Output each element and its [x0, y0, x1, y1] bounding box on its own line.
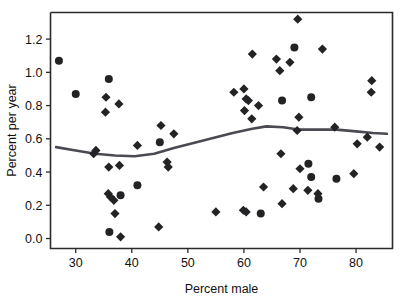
x-tick-label: 80: [349, 256, 363, 270]
x-axis-title: Percent male: [185, 282, 259, 296]
data-point-circle: [117, 191, 125, 199]
data-point-circle: [332, 175, 340, 183]
x-tick-label: 70: [293, 256, 307, 270]
x-tick-label: 50: [181, 256, 195, 270]
x-tick-label: 40: [125, 256, 139, 270]
chart-canvas: 0.00.20.40.60.81.01.2 304050607080 Perce…: [0, 0, 411, 307]
scatter-plot-figure: 0.00.20.40.60.81.01.2 304050607080 Perce…: [0, 0, 411, 307]
data-point-circle: [105, 75, 113, 83]
x-tick-label: 60: [237, 256, 251, 270]
data-point-circle: [290, 43, 298, 51]
y-tick-label: 0.4: [25, 166, 42, 180]
y-tick-label: 0.6: [25, 132, 42, 146]
data-point-circle: [314, 195, 322, 203]
x-tick-label: 30: [69, 256, 83, 270]
data-point-circle: [133, 181, 141, 189]
y-tick-label: 0.8: [25, 99, 42, 113]
data-point-circle: [304, 160, 312, 168]
y-axis-title: Percent per year: [5, 84, 19, 176]
y-tick-label: 0.2: [25, 199, 42, 213]
data-point-circle: [105, 228, 113, 236]
data-point-circle: [72, 90, 80, 98]
data-point-circle: [307, 173, 315, 181]
y-tick-label: 1.2: [25, 33, 42, 47]
data-point-circle: [55, 57, 63, 65]
y-tick-label: 0.0: [25, 232, 42, 246]
data-point-circle: [257, 210, 265, 218]
y-tick-label: 1.0: [25, 66, 42, 80]
data-point-circle: [307, 93, 315, 101]
data-point-circle: [278, 97, 286, 105]
data-point-circle: [156, 138, 164, 146]
